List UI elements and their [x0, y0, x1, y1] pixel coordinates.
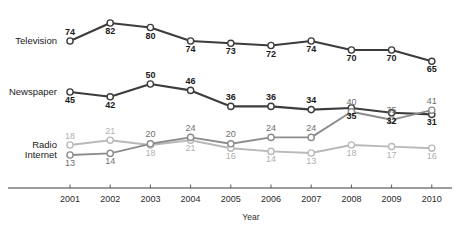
data-point-label: 50 [145, 70, 155, 80]
x-axis-tick-label: 2002 [100, 194, 120, 204]
x-axis-tick-label: 2003 [140, 194, 160, 204]
data-point-label: 45 [65, 95, 75, 105]
data-point-label: 24 [306, 123, 316, 133]
data-point[interactable] [429, 107, 435, 113]
data-point-label: 20 [226, 129, 236, 139]
series-label-internet: Internet [25, 149, 58, 160]
x-axis-title: Year [242, 212, 259, 222]
data-point-label: 21 [186, 143, 196, 153]
x-axis: 2001200220032004200520062007200820092010… [8, 185, 452, 223]
series-label-newspaper: Newspaper [9, 86, 57, 97]
x-axis-tick-label: 2007 [301, 194, 321, 204]
data-point[interactable] [308, 134, 314, 140]
data-point-label: 14 [266, 154, 276, 164]
data-point-label: 82 [105, 26, 115, 36]
data-point-label: 14 [105, 156, 115, 166]
series-line-television [70, 23, 432, 61]
data-point-label: 18 [346, 148, 356, 158]
data-point-label: 72 [266, 49, 276, 59]
data-point-label: 18 [65, 131, 75, 141]
data-point-label: 13 [65, 158, 75, 168]
data-point-label: 41 [427, 96, 437, 106]
data-point-label: 20 [145, 129, 155, 139]
data-point[interactable] [67, 142, 73, 148]
series-layer [70, 23, 432, 155]
data-point[interactable] [147, 141, 153, 147]
data-point-label: 70 [346, 53, 356, 63]
data-point-label: 42 [105, 100, 115, 110]
data-point-label: 46 [186, 76, 196, 86]
x-axis-tick-label: 2009 [382, 194, 402, 204]
chart-canvas: 7482807473727470706545425046363634353231… [0, 0, 460, 234]
data-point-label: 18 [145, 148, 155, 158]
data-point-label: 36 [266, 92, 276, 102]
data-point-label: 36 [226, 92, 236, 102]
data-point[interactable] [188, 134, 194, 140]
series-name-layer: TelevisionNewspaperRadioInternet [9, 35, 57, 160]
series-label-television: Television [15, 35, 57, 46]
data-point[interactable] [67, 38, 73, 44]
data-point-label: 80 [145, 31, 155, 41]
data-point[interactable] [147, 81, 153, 87]
data-point-label: 65 [427, 64, 437, 74]
line-chart: 7482807473727470706545425046363634353231… [0, 0, 460, 234]
data-point[interactable] [228, 141, 234, 147]
data-point-label: 73 [226, 46, 236, 56]
x-axis-tick-label: 2004 [181, 194, 201, 204]
data-point-label: 13 [306, 156, 316, 166]
data-point-label: 16 [427, 151, 437, 161]
data-point-label: 34 [306, 95, 316, 105]
data-point-label: 70 [387, 53, 397, 63]
data-point[interactable] [268, 103, 274, 109]
data-point-label: 74 [65, 27, 75, 37]
data-point-label: 35 [387, 105, 397, 115]
data-point[interactable] [228, 103, 234, 109]
x-axis-tick-label: 2008 [341, 194, 361, 204]
data-point-label: 16 [226, 151, 236, 161]
data-point[interactable] [188, 87, 194, 93]
x-axis-tick-label: 2001 [60, 194, 80, 204]
marker-layer [67, 20, 435, 158]
x-axis-tick-label: 2005 [221, 194, 241, 204]
data-point-label: 24 [266, 123, 276, 133]
data-point-label: 24 [186, 123, 196, 133]
series-line-internet [70, 110, 432, 155]
series-line-radio [70, 140, 432, 153]
data-point-label: 35 [346, 111, 356, 121]
data-point-label: 74 [186, 44, 196, 54]
data-point[interactable] [268, 134, 274, 140]
data-point[interactable] [107, 137, 113, 143]
x-axis-tick-label: 2006 [261, 194, 281, 204]
data-point-label: 31 [427, 117, 437, 127]
data-point[interactable] [308, 107, 314, 113]
data-point-label: 21 [105, 126, 115, 136]
series-line-newspaper [70, 84, 432, 114]
data-point-label: 40 [346, 97, 356, 107]
data-point-label: 17 [387, 150, 397, 160]
x-axis-tick-label: 2010 [422, 194, 442, 204]
data-point-label: 32 [387, 116, 397, 126]
data-point-label: 74 [306, 44, 316, 54]
